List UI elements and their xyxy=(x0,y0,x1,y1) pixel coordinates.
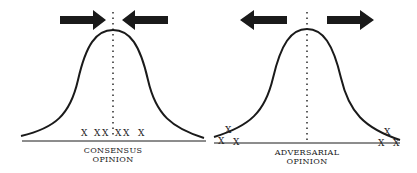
arrow-left-icon xyxy=(240,10,287,30)
opinion-marker: X xyxy=(102,128,109,138)
arrow-right-icon xyxy=(60,10,106,30)
arrow-left-icon xyxy=(122,10,168,30)
opinion-marker: X xyxy=(115,128,122,138)
opinion-marker: X xyxy=(94,128,101,138)
opinion-marker: X xyxy=(225,125,232,135)
opinion-marker: X xyxy=(123,128,130,138)
panel-label: ADVERSARIAL xyxy=(274,148,340,157)
arrow-right-icon xyxy=(327,10,374,30)
opinion-marker: X xyxy=(233,137,240,147)
panel-label: OPINION xyxy=(93,155,134,164)
adversarial-panel: X X X X X X ADVERSARIAL OPINION xyxy=(214,10,400,166)
opinion-marker: X xyxy=(81,128,88,138)
opinion-marker: X xyxy=(384,127,391,137)
consensus-panel: X X X X X X CONSENSUS OPINION xyxy=(21,10,206,164)
opinion-marker: X xyxy=(393,138,400,148)
panel-label: OPINION xyxy=(287,157,328,166)
opinion-marker: X xyxy=(378,138,385,148)
diagram-canvas: X X X X X X CONSENSUS OPINION X X X X X … xyxy=(0,0,417,173)
panel-label: CONSENSUS xyxy=(84,146,142,155)
opinion-marker: X xyxy=(138,128,145,138)
opinion-marker: X xyxy=(218,136,225,146)
